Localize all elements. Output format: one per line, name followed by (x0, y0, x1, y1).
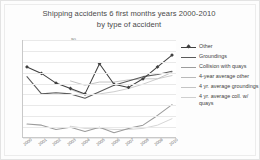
legend-swatch-icon (181, 67, 196, 68)
legend-item[interactable]: 4-year average other (181, 73, 259, 82)
chart-legend: OtherGroundingsCollision with quays4-yea… (181, 43, 259, 107)
grid-line (23, 94, 176, 95)
legend-item[interactable]: Collision with quays (181, 63, 259, 72)
chart-title-line-2: by type of accident (15, 20, 243, 31)
legend-swatch-icon (181, 87, 196, 88)
plot-area (22, 40, 176, 138)
grid-line (23, 62, 176, 63)
chart-series-layer (23, 40, 176, 137)
legend-swatch-icon (181, 97, 196, 98)
chart-frame: Shipping accidents 6 first months years … (0, 0, 260, 160)
legend-label: 4-year average other (199, 73, 259, 80)
chart-title-line-1: Shipping accidents 6 first months years … (15, 9, 243, 20)
legend-item[interactable]: Groundings (181, 53, 259, 62)
grid-line (23, 51, 176, 52)
legend-label: Groundings (199, 53, 259, 60)
legend-swatch-icon (181, 77, 196, 78)
series-marker (25, 65, 29, 69)
legend-item[interactable]: Other (181, 43, 259, 52)
grid-line (23, 116, 176, 117)
grid-line (23, 84, 176, 85)
grid-line (23, 105, 176, 106)
legend-label: Other (199, 43, 259, 50)
grid-line (23, 40, 176, 41)
legend-label: 4 yr. average coll. w/ quays (199, 93, 259, 106)
chart-title: Shipping accidents 6 first months years … (15, 9, 243, 30)
legend-label: 4 yr. average groundings (199, 83, 259, 90)
grid-line (23, 127, 176, 128)
legend-item[interactable]: 4 yr. average groundings (181, 83, 259, 92)
legend-swatch-icon (181, 57, 196, 58)
grid-line (23, 73, 176, 74)
legend-item[interactable]: 4 yr. average coll. w/ quays (181, 93, 259, 106)
legend-label: Collision with quays (199, 63, 259, 70)
